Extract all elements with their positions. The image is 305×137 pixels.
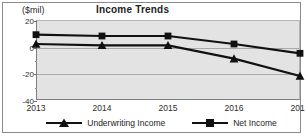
legend-entry-underwriting-income: Underwriting Income [45, 118, 165, 128]
triangle-marker-icon [45, 118, 83, 128]
x-axis-tick-label: 2015 [159, 103, 178, 113]
square-marker [33, 31, 40, 38]
square-marker [99, 33, 106, 40]
x-axis-tick-label: 2017 [291, 103, 305, 113]
chart-legend: Underwriting Income Net Income [36, 116, 286, 130]
x-axis-tick-label: 2014 [93, 103, 112, 113]
chart-title: Income Trends [96, 4, 169, 15]
x-axis-tick-label: 2013 [27, 103, 46, 113]
square-marker [297, 50, 304, 57]
y-axis-unit-label: ($mil) [22, 5, 45, 15]
series-layer [36, 20, 300, 100]
y-axis-tick-label: -20 [22, 70, 34, 79]
income-trends-chart-figure: ($mil) Income Trends 200-20-40 201320142… [0, 0, 305, 137]
y-axis-tick-label: 20 [25, 17, 34, 26]
x-axis-tick-label: 2016 [225, 103, 244, 113]
square-marker [231, 41, 238, 48]
y-axis-tick-mark [34, 101, 37, 102]
square-marker [165, 33, 172, 40]
legend-label-net-income: Net Income [233, 118, 276, 128]
legend-entry-net-income: Net Income [191, 118, 276, 128]
square-marker-icon [191, 118, 229, 128]
legend-label-underwriting-income: Underwriting Income [87, 118, 165, 128]
